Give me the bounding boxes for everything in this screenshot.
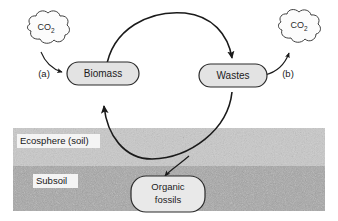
carbon-cycle-diagram: CO2 CO2 (a) (b) Biomass Wastes Organic f…	[0, 0, 338, 221]
co2-cloud-left: CO2	[27, 11, 69, 43]
marker-b-label: (b)	[282, 68, 294, 79]
diagram-canvas: CO2 CO2 (a) (b) Biomass Wastes Organic f…	[0, 0, 338, 221]
organic-fossils-label-line1: Organic	[151, 181, 185, 192]
marker-a-label: (a)	[38, 68, 50, 79]
organic-fossils-label-line2: fossils	[155, 194, 182, 205]
flow-biomass-to-wastes	[106, 13, 232, 69]
node-biomass[interactable]: Biomass	[67, 62, 139, 85]
co2-cloud-right: CO2	[278, 10, 320, 43]
wastes-label: Wastes	[217, 70, 250, 81]
subsoil-label: Subsoil	[36, 175, 67, 186]
node-organic-fossils[interactable]: Organic fossils	[131, 176, 205, 212]
biomass-label: Biomass	[84, 68, 122, 79]
node-wastes[interactable]: Wastes	[199, 64, 267, 87]
ecosphere-label: Ecosphere (soil)	[20, 135, 89, 146]
ecosphere-label-group: Ecosphere (soil)	[17, 134, 100, 148]
subsoil-label-group: Subsoil	[33, 174, 78, 188]
